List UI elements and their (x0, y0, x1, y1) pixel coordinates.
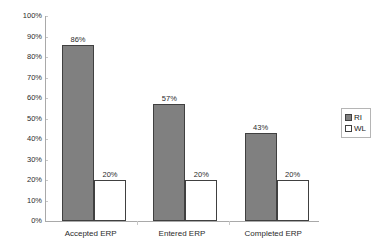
y-tick-label: 80% (2, 53, 42, 61)
y-tick-label: 20% (2, 176, 42, 184)
y-tick-label: 90% (2, 33, 42, 41)
x-tick-label-completed-erp: Completed ERP (228, 228, 319, 239)
bar-value-label: 20% (102, 170, 117, 179)
bar-ri-accepted-erp[interactable]: 86% (62, 45, 94, 221)
bar-ri-completed-erp[interactable]: 43% (245, 133, 277, 221)
y-tick-label: 10% (2, 197, 42, 205)
category-separator (137, 221, 138, 225)
y-tick-label: 50% (2, 115, 42, 123)
x-tick-label-entered-erp: Entered ERP (136, 228, 227, 239)
bar-group-accepted-erp: 86% 20% (46, 16, 137, 221)
y-tick-label: 40% (2, 135, 42, 143)
bar-value-label: 20% (285, 170, 300, 179)
legend-item-wl[interactable]: WL (345, 123, 366, 134)
x-axis: Accepted ERP Entered ERP Completed ERP (45, 228, 319, 242)
bar-value-label: 20% (194, 170, 209, 179)
bar-group-completed-erp: 43% 20% (229, 16, 320, 221)
bar-chart: 100% 90% 80% 70% 60% 50% 40% 30% 20% 10%… (0, 0, 388, 249)
y-tick-label: 100% (2, 12, 42, 20)
legend-item-ri[interactable]: RI (345, 112, 366, 123)
bar-wl-entered-erp[interactable]: 20% (185, 180, 217, 221)
bar-value-label: 57% (162, 94, 177, 103)
plot-area: 86% 20% 57% 20% 43% 20% (45, 16, 319, 222)
y-axis: 100% 90% 80% 70% 60% 50% 40% 30% 20% 10%… (0, 16, 42, 221)
y-tick-label: 30% (2, 156, 42, 164)
legend-swatch-ri-icon (345, 114, 352, 121)
x-tick-label-accepted-erp: Accepted ERP (45, 228, 136, 239)
bar-wl-accepted-erp[interactable]: 20% (94, 180, 126, 221)
legend-label-wl: WL (354, 124, 366, 133)
y-tick-label: 70% (2, 74, 42, 82)
y-tick-label: 0% (2, 217, 42, 225)
bar-value-label: 86% (70, 35, 85, 44)
bar-wl-completed-erp[interactable]: 20% (277, 180, 309, 221)
category-separator (229, 221, 230, 225)
bar-value-label: 43% (253, 123, 268, 132)
y-tick-label: 60% (2, 94, 42, 102)
bar-ri-entered-erp[interactable]: 57% (153, 104, 185, 221)
chart-legend: RI WL (341, 108, 371, 138)
legend-label-ri: RI (354, 113, 362, 122)
bar-group-entered-erp: 57% 20% (137, 16, 228, 221)
legend-swatch-wl-icon (345, 125, 352, 132)
